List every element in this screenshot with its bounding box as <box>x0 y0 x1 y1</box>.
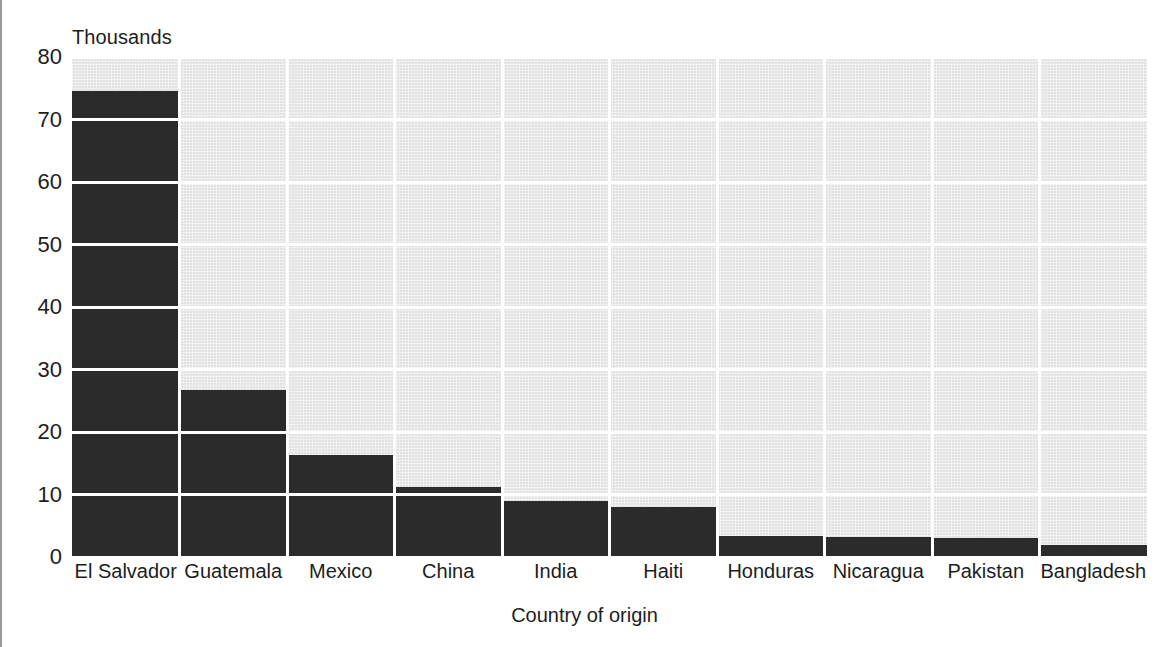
x-tick-label: Mexico <box>287 560 395 583</box>
gridline-horizontal <box>72 306 1147 309</box>
gridline-vertical <box>716 57 719 557</box>
x-tick-label: Honduras <box>717 560 825 583</box>
gridline-horizontal <box>72 243 1147 246</box>
y-tick-label: 0 <box>6 544 62 570</box>
bar <box>287 455 395 557</box>
x-tick-label: El Salvador <box>72 560 180 583</box>
y-tick-label: 30 <box>6 357 62 383</box>
gridline-vertical <box>608 57 611 557</box>
gridline-vertical <box>1038 57 1041 557</box>
y-axis: 01020304050607080 <box>0 57 62 557</box>
bar <box>932 538 1040 557</box>
bar <box>502 501 610 557</box>
x-tick-label: Nicaragua <box>825 560 933 583</box>
x-tick-label: Guatemala <box>180 560 288 583</box>
y-tick-label: 10 <box>6 482 62 508</box>
y-tick-label: 50 <box>6 232 62 258</box>
gridline-horizontal <box>72 368 1147 371</box>
gridline-vertical <box>501 57 504 557</box>
y-tick-label: 60 <box>6 169 62 195</box>
bar <box>1040 545 1148 558</box>
plot-area <box>72 57 1147 557</box>
y-tick-label: 80 <box>6 44 62 70</box>
gridline-vertical <box>931 57 934 557</box>
y-tick-label: 70 <box>6 107 62 133</box>
gridline-vertical <box>823 57 826 557</box>
x-axis: El SalvadorGuatemalaMexicoChinaIndiaHait… <box>72 560 1147 594</box>
gridline-horizontal <box>72 181 1147 184</box>
bar <box>717 536 825 557</box>
bar-chart-figure: Thousands 01020304050607080 El SalvadorG… <box>0 0 1169 647</box>
x-axis-title: Country of origin <box>0 604 1169 627</box>
bar <box>825 537 933 557</box>
bar <box>395 487 503 557</box>
unit-caption: Thousands <box>72 26 172 49</box>
gridline-horizontal <box>72 56 1147 59</box>
bar <box>610 507 718 557</box>
x-tick-label: Haiti <box>610 560 718 583</box>
bar <box>72 91 180 557</box>
y-tick-label: 40 <box>6 294 62 320</box>
x-tick-label: Bangladesh <box>1040 560 1148 583</box>
y-tick-label: 20 <box>6 419 62 445</box>
x-tick-label: India <box>502 560 610 583</box>
x-tick-label: Pakistan <box>932 560 1040 583</box>
x-tick-label: China <box>395 560 503 583</box>
bar <box>180 390 288 557</box>
gridline-horizontal <box>72 118 1147 121</box>
